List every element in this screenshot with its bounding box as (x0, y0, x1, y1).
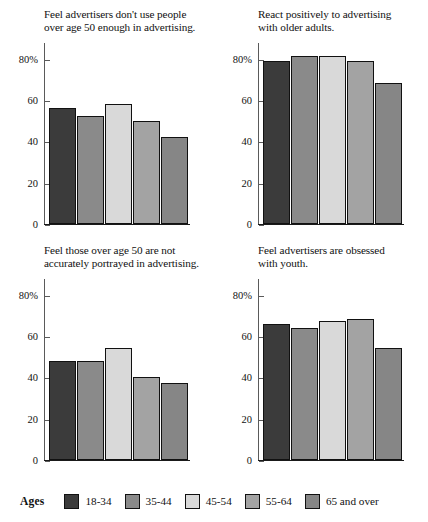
y-tick-label: 40 (28, 373, 39, 384)
chart-panel-grid: Feel advertisers don't use people over a… (0, 8, 428, 478)
bar-0-1 (77, 116, 104, 224)
chart-panel-1: React positively to advertising with old… (214, 8, 428, 242)
bar-0-2 (105, 104, 132, 224)
legend-item-label: 45-54 (206, 495, 232, 507)
plot-area-2: 020406080% (44, 279, 194, 461)
y-axis-line-3 (258, 279, 259, 461)
y-tick-label: 80% (233, 54, 252, 65)
y-tick-label: 20 (242, 414, 253, 425)
y-tick-label: 20 (28, 414, 39, 425)
y-tick-label: 0 (247, 220, 252, 231)
y-tick-label: 40 (28, 137, 39, 148)
bar-1-4 (375, 83, 402, 224)
bar-3-3 (347, 319, 374, 460)
y-tick-label: 80% (19, 54, 38, 65)
bar-2-1 (77, 361, 104, 460)
legend-item-label: 35-44 (146, 495, 172, 507)
bar-chart-figure: Feel advertisers don't use people over a… (0, 0, 428, 522)
y-tick-label: 40 (242, 137, 253, 148)
bar-group-0 (49, 43, 189, 224)
chart-legend: Ages 18-3435-4445-5455-6465 and over (0, 486, 428, 516)
bar-2-4 (161, 383, 188, 460)
x-axis-line-1 (258, 224, 404, 225)
y-tick-label: 20 (242, 178, 253, 189)
y-tick-label: 0 (33, 220, 38, 231)
legend-items: 18-3435-4445-5455-6465 and over (64, 494, 391, 509)
x-axis-line-0 (44, 224, 190, 225)
legend-item-label: 55-64 (266, 495, 292, 507)
y-tick-label: 60 (28, 96, 39, 107)
legend-item-4[interactable]: 65 and over (305, 494, 379, 509)
bar-0-0 (49, 108, 76, 224)
legend-title: Ages (20, 495, 44, 507)
y-axis-line-0 (44, 43, 45, 225)
legend-swatch-icon (245, 494, 260, 509)
bar-2-0 (49, 361, 76, 460)
plot-area-0: 020406080% (44, 43, 194, 225)
chart-panel-3: Feel advertisers are obsessed with youth… (214, 244, 428, 478)
x-axis-line-2 (44, 460, 190, 461)
y-tick-mark (259, 461, 264, 462)
legend-swatch-icon (125, 494, 140, 509)
bar-3-1 (291, 328, 318, 460)
y-tick-label: 80% (233, 290, 252, 301)
plot-area-1: 020406080% (258, 43, 408, 225)
bar-3-4 (375, 348, 402, 460)
legend-item-1[interactable]: 35-44 (125, 494, 172, 509)
legend-swatch-icon (305, 494, 320, 509)
bar-1-2 (319, 56, 346, 224)
y-tick-label: 60 (242, 96, 253, 107)
y-tick-mark (45, 225, 50, 226)
chart-panel-2: Feel those over age 50 are not accuratel… (0, 244, 214, 478)
bar-0-3 (133, 121, 160, 224)
chart-title-1: React positively to advertising with old… (258, 8, 428, 33)
y-axis-line-1 (258, 43, 259, 225)
y-tick-label: 0 (33, 456, 38, 467)
legend-item-label: 18-34 (85, 495, 111, 507)
legend-item-2[interactable]: 45-54 (185, 494, 232, 509)
bar-2-2 (105, 348, 132, 460)
y-axis-line-2 (44, 279, 45, 461)
y-tick-label: 80% (19, 290, 38, 301)
legend-swatch-icon (64, 494, 79, 509)
legend-swatch-icon (185, 494, 200, 509)
plot-area-3: 020406080% (258, 279, 408, 461)
chart-panel-0: Feel advertisers don't use people over a… (0, 8, 214, 242)
x-axis-line-3 (258, 460, 404, 461)
y-tick-mark (45, 461, 50, 462)
y-tick-label: 0 (247, 456, 252, 467)
y-tick-mark (259, 225, 264, 226)
legend-item-label: 65 and over (326, 495, 379, 507)
chart-title-3: Feel advertisers are obsessed with youth… (258, 244, 428, 269)
y-tick-label: 20 (28, 178, 39, 189)
chart-title-2: Feel those over age 50 are not accuratel… (44, 244, 216, 269)
bar-1-3 (347, 61, 374, 224)
bar-0-4 (161, 137, 188, 224)
bar-group-2 (49, 279, 189, 460)
chart-title-0: Feel advertisers don't use people over a… (44, 8, 216, 33)
y-tick-label: 60 (28, 332, 39, 343)
bar-group-3 (263, 279, 403, 460)
bar-1-1 (291, 56, 318, 224)
y-tick-label: 40 (242, 373, 253, 384)
bar-3-2 (319, 321, 346, 460)
bar-3-0 (263, 324, 290, 461)
y-tick-label: 60 (242, 332, 253, 343)
legend-item-0[interactable]: 18-34 (64, 494, 111, 509)
bar-1-0 (263, 61, 290, 224)
legend-item-3[interactable]: 55-64 (245, 494, 292, 509)
bar-group-1 (263, 43, 403, 224)
bar-2-3 (133, 377, 160, 460)
